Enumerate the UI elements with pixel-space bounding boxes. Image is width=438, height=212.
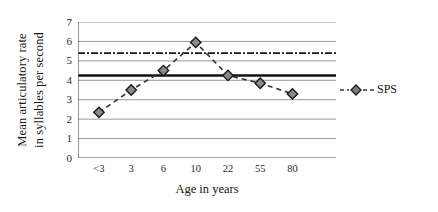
data-point-marker bbox=[191, 37, 201, 47]
x-axis-tick-label: 6 bbox=[148, 163, 178, 174]
gridlines bbox=[78, 22, 336, 139]
y-axis-tick-label: 4 bbox=[58, 75, 72, 86]
data-point-marker bbox=[126, 85, 136, 95]
y-axis-title-line-2: in syllables per second bbox=[31, 32, 48, 148]
plot-svg bbox=[78, 22, 336, 158]
x-axis-tick-label: 3 bbox=[116, 163, 146, 174]
x-axis-tick-label: 55 bbox=[245, 163, 275, 174]
x-axis-tick-label: 80 bbox=[277, 163, 307, 174]
data-point-marker bbox=[94, 107, 104, 117]
series-markers-sps bbox=[94, 37, 298, 117]
x-axis-tick-label: 22 bbox=[213, 163, 243, 174]
legend-label-sps: SPS bbox=[377, 82, 397, 97]
data-point-marker bbox=[287, 89, 297, 99]
chart-figure: Mean articulatory rate in syllables per … bbox=[0, 0, 438, 212]
y-axis-tick-label: 2 bbox=[58, 114, 72, 125]
x-axis-title: Age in years bbox=[78, 182, 336, 197]
y-axis-tick-label: 3 bbox=[58, 94, 72, 105]
reference-lines bbox=[78, 53, 336, 75]
plot-area bbox=[78, 22, 336, 158]
y-axis-title: Mean articulatory rate in syllables per … bbox=[0, 0, 62, 180]
y-axis-tick-label: 1 bbox=[58, 133, 72, 144]
y-axis-tick-label: 0 bbox=[58, 153, 72, 164]
x-axis-tick-label: 10 bbox=[181, 163, 211, 174]
x-axis-tick-label: <3 bbox=[84, 163, 114, 174]
y-axis-title-line-1: Mean articulatory rate bbox=[15, 33, 29, 146]
y-axis-tick-label: 7 bbox=[58, 17, 72, 28]
y-axis-tick-label: 5 bbox=[58, 55, 72, 66]
y-axis-title-text: Mean articulatory rate in syllables per … bbox=[14, 32, 48, 148]
y-axis-tick-label: 6 bbox=[58, 36, 72, 47]
legend-marker-icon bbox=[340, 83, 374, 97]
chart-legend: SPS bbox=[340, 82, 397, 97]
data-point-marker bbox=[223, 70, 233, 80]
data-point-marker bbox=[255, 78, 265, 88]
